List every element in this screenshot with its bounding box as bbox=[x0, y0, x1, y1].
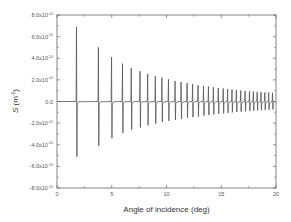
y-axis-title: S (m-1) bbox=[10, 89, 20, 113]
y-tick-label: 0.0 bbox=[45, 99, 53, 105]
x-tick-label: 10 bbox=[163, 191, 169, 197]
x-axis-title: Angle of incidence (deg) bbox=[123, 205, 210, 214]
x-tick-label: 20 bbox=[273, 191, 279, 197]
chart: 05101520 8.0x10-106.0x10-104.0x10-102.0x… bbox=[0, 0, 291, 222]
x-tick-label: 0 bbox=[55, 191, 58, 197]
x-tick-label: 5 bbox=[110, 191, 113, 197]
x-tick-label: 15 bbox=[218, 191, 224, 197]
